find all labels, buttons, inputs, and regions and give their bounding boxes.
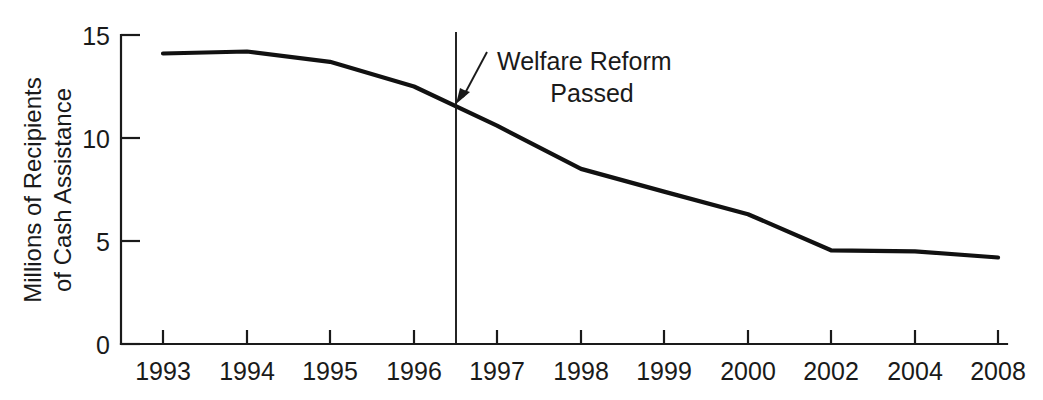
y-axis-title-line2: of Cash Assistance (49, 88, 76, 292)
y-tick-label-5: 5 (96, 228, 110, 256)
y-tick-label-10: 10 (82, 125, 110, 153)
y-tick-label-0: 0 (96, 331, 110, 359)
line-chart: Millions of Recipients of Cash Assistanc… (0, 0, 1043, 400)
x-tick-label-2004: 2004 (887, 357, 943, 385)
x-tick-label-2008: 2008 (970, 357, 1026, 385)
welfare-reform-annotation-line2: Passed (550, 79, 633, 107)
x-tick-label-2002: 2002 (803, 357, 859, 385)
y-axis-ticks (121, 35, 140, 344)
y-tick-label-15: 15 (82, 22, 110, 50)
x-tick-label-1997: 1997 (469, 357, 525, 385)
x-tick-label-1995: 1995 (302, 357, 358, 385)
welfare-reform-arrow-shaft (463, 52, 487, 97)
x-tick-label-1996: 1996 (386, 357, 442, 385)
x-tick-label-1998: 1998 (553, 357, 609, 385)
x-axis-ticks (163, 330, 998, 344)
x-tick-label-1994: 1994 (219, 357, 275, 385)
x-tick-label-1999: 1999 (636, 357, 692, 385)
x-tick-label-1993: 1993 (135, 357, 191, 385)
x-tick-label-2000: 2000 (720, 357, 776, 385)
welfare-reform-arrow-head (456, 88, 470, 104)
chart-page: Millions of Recipients of Cash Assistanc… (0, 0, 1043, 400)
welfare-reform-annotation-line1: Welfare Reform (497, 47, 672, 75)
y-axis-title-line1: Millions of Recipients (19, 77, 46, 302)
